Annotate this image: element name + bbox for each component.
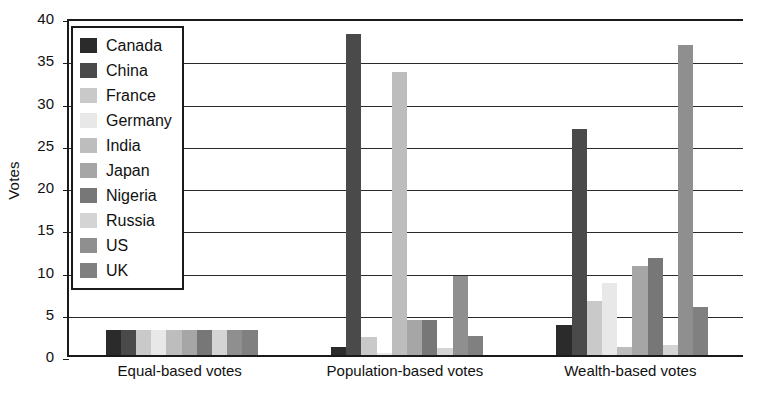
y-axis-tick-mark [63, 317, 69, 318]
bar[interactable] [377, 353, 392, 355]
bar[interactable] [151, 330, 166, 355]
legend-item-uk[interactable]: UK [80, 258, 172, 283]
legend-swatch-china-icon [80, 63, 97, 78]
y-axis-tick-mark [63, 106, 69, 107]
y-axis-tick-mark [63, 63, 69, 64]
y-axis-tick-label: 10 [14, 265, 54, 280]
legend-item-label: Japan [106, 163, 150, 179]
legend-item-germany[interactable]: Germany [80, 108, 172, 133]
legend-swatch-japan-icon [80, 163, 97, 178]
bar[interactable] [242, 330, 257, 355]
y-axis-tick-label: 25 [14, 138, 54, 153]
bar[interactable] [197, 330, 212, 355]
legend-item-us[interactable]: US [80, 233, 172, 258]
bar[interactable] [693, 307, 708, 355]
legend-item-label: China [106, 63, 148, 79]
legend-item-label: Russia [106, 213, 155, 229]
bar[interactable] [182, 330, 197, 355]
legend-item-label: US [106, 238, 128, 254]
bar[interactable] [212, 330, 227, 355]
bar[interactable] [106, 330, 121, 355]
y-axis-tick-label: 20 [14, 180, 54, 195]
y-axis-tick-mark [63, 359, 69, 360]
y-axis-tick-labels: 0510152025303540 [0, 0, 64, 413]
y-axis-tick-label: 35 [14, 53, 54, 68]
x-axis-group-labels: Equal-based votesPopulation-based votesW… [67, 362, 743, 390]
legend-swatch-us-icon [80, 238, 97, 253]
legend-swatch-germany-icon [80, 113, 97, 128]
x-axis-label: Population-based votes [292, 362, 517, 379]
bar[interactable] [617, 347, 632, 355]
bar[interactable] [166, 330, 181, 355]
y-axis-tick-label: 40 [14, 11, 54, 26]
legend-item-russia[interactable]: Russia [80, 208, 172, 233]
y-axis-tick-label: 30 [14, 96, 54, 111]
legend-item-nigeria[interactable]: Nigeria [80, 183, 172, 208]
y-axis-tick-mark [63, 148, 69, 149]
y-axis-tick-label: 15 [14, 222, 54, 237]
bar-group [556, 21, 708, 355]
legend-item-japan[interactable]: Japan [80, 158, 172, 183]
legend-item-india[interactable]: India [80, 133, 172, 158]
bar[interactable] [556, 325, 571, 355]
bar[interactable] [346, 34, 361, 355]
bar-chart: Votes 0510152025303540 Equal-based votes… [0, 0, 757, 413]
bar[interactable] [468, 336, 483, 355]
bar[interactable] [678, 45, 693, 355]
legend-item-canada[interactable]: Canada [80, 33, 172, 58]
legend-item-china[interactable]: China [80, 58, 172, 83]
legend-item-france[interactable]: France [80, 83, 172, 108]
legend-item-label: India [106, 138, 141, 154]
legend-swatch-canada-icon [80, 38, 97, 53]
bar[interactable] [331, 347, 346, 355]
bar[interactable] [361, 337, 376, 355]
legend-item-label: Canada [106, 38, 162, 54]
legend-item-label: UK [106, 263, 128, 279]
bar[interactable] [632, 266, 647, 355]
y-axis-tick-mark [63, 275, 69, 276]
y-axis-tick-mark [63, 190, 69, 191]
legend-item-label: France [106, 88, 156, 104]
legend-item-label: Germany [106, 113, 172, 129]
bar[interactable] [422, 320, 437, 355]
bar[interactable] [648, 258, 663, 355]
x-axis-label: Equal-based votes [67, 362, 292, 379]
bar[interactable] [121, 330, 136, 355]
legend-item-label: Nigeria [106, 188, 157, 204]
y-axis-tick-mark [63, 21, 69, 22]
legend-swatch-nigeria-icon [80, 188, 97, 203]
y-axis-tick-label: 0 [14, 349, 54, 364]
legend-swatch-india-icon [80, 138, 97, 153]
bar-group [331, 21, 483, 355]
bar[interactable] [572, 129, 587, 355]
bar[interactable] [602, 283, 617, 355]
x-axis-label: Wealth-based votes [518, 362, 743, 379]
y-axis-tick-mark [63, 232, 69, 233]
y-axis-tick-label: 5 [14, 307, 54, 322]
bar[interactable] [136, 330, 151, 355]
legend-swatch-uk-icon [80, 263, 97, 278]
legend-swatch-russia-icon [80, 213, 97, 228]
bar[interactable] [453, 276, 468, 355]
bar[interactable] [392, 72, 407, 355]
chart-legend: CanadaChinaFranceGermanyIndiaJapanNigeri… [71, 26, 184, 290]
legend-swatch-france-icon [80, 88, 97, 103]
bar[interactable] [663, 345, 678, 355]
bar[interactable] [437, 348, 452, 355]
bar[interactable] [407, 320, 422, 355]
bar[interactable] [587, 301, 602, 355]
bar[interactable] [227, 330, 242, 355]
